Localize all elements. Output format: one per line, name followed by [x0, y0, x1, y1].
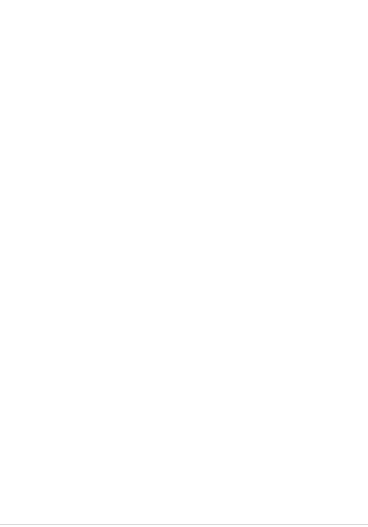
- figure-container: [0, 0, 368, 527]
- chart-top-conductivity: [0, 0, 368, 264]
- scan-artifact-line: [0, 524, 368, 525]
- chart-bottom-sinapine-leakage: [0, 264, 368, 527]
